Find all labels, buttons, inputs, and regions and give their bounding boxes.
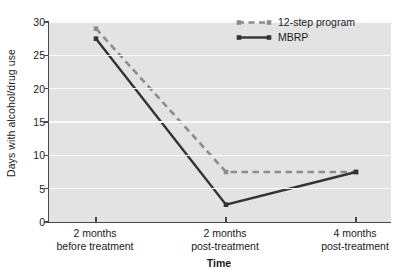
x-axis-title: Time xyxy=(48,257,390,269)
x-tick-label-line: before treatment xyxy=(56,240,133,253)
data-point-marker xyxy=(94,26,99,31)
gridline xyxy=(49,88,391,89)
plot-area xyxy=(48,22,391,223)
y-axis-tick-labels: 051015202530 xyxy=(20,22,45,222)
gridline xyxy=(49,121,391,122)
gridline xyxy=(49,155,391,156)
x-tick-label: 2 monthsbefore treatment xyxy=(56,227,133,253)
data-point-marker xyxy=(354,170,359,175)
legend-entry: MBRP xyxy=(236,31,355,43)
data-point-marker xyxy=(224,170,229,175)
y-tick-mark xyxy=(44,21,49,22)
chart-legend: 12-step programMBRP xyxy=(236,16,355,43)
y-tick-mark xyxy=(44,188,49,189)
series-line xyxy=(96,29,356,172)
y-axis-title: Days with alcohol/drug use xyxy=(0,0,22,225)
x-tick-label-line: post-treatment xyxy=(321,240,389,253)
x-tick-mark xyxy=(225,217,226,223)
gridline xyxy=(49,55,391,56)
legend-label: 12-step program xyxy=(278,17,355,28)
x-tick-label: 2 monthspost-treatment xyxy=(191,227,259,253)
y-tick-mark xyxy=(44,88,49,89)
x-tick-label: 4 monthspost-treatment xyxy=(321,227,389,253)
x-tick-mark xyxy=(355,217,356,223)
legend-entry: 12-step program xyxy=(236,16,355,28)
gridline xyxy=(49,188,391,189)
y-tick-mark xyxy=(44,221,49,222)
x-tick-label-line: post-treatment xyxy=(191,240,259,253)
line-chart-figure: Days with alcohol/drug use 051015202530 … xyxy=(0,0,407,280)
x-tick-mark xyxy=(95,217,96,223)
y-tick-mark xyxy=(44,55,49,56)
x-tick-label-line: 2 months xyxy=(56,227,133,240)
data-point-marker xyxy=(224,202,229,207)
legend-label: MBRP xyxy=(278,32,308,43)
y-tick-mark xyxy=(44,155,49,156)
y-tick-mark xyxy=(44,121,49,122)
data-point-marker xyxy=(94,36,99,41)
x-tick-label-line: 4 months xyxy=(321,227,389,240)
x-axis-tick-labels: 2 monthsbefore treatment2 monthspost-tre… xyxy=(48,227,390,259)
legend-swatch-dashed-line-icon xyxy=(236,17,272,28)
legend-swatch-solid-line-icon xyxy=(236,32,272,43)
y-axis-title-text: Days with alcohol/drug use xyxy=(5,48,17,176)
x-tick-label-line: 2 months xyxy=(191,227,259,240)
